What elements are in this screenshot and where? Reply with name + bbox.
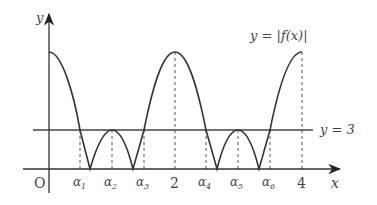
x-axis-label: x — [331, 175, 339, 191]
origin-label: O — [34, 175, 45, 191]
tick-alpha1: α1 — [73, 175, 86, 191]
line-label: y = 3 — [319, 122, 355, 137]
curve-label: y = |f(x)| — [249, 28, 308, 43]
tick-two: 2 — [170, 175, 179, 191]
tick-alpha4: α4 — [198, 175, 211, 191]
tick-alpha5: α5 — [230, 175, 243, 191]
tick-alpha6: α6 — [262, 175, 275, 191]
tick-alpha2: α2 — [104, 175, 117, 191]
y-axis-label: y — [35, 10, 44, 25]
tick-alpha3: α3 — [136, 175, 149, 191]
tick-four: 4 — [297, 175, 306, 191]
dashed-guides — [80, 52, 302, 169]
graph-of-abs-f: y x O y = |f(x)| y = 3 α1 α2 α3 2 α4 α5 … — [0, 0, 377, 205]
curve-abs-f — [49, 52, 302, 169]
tick-labels: α1 α2 α3 2 α4 α5 α6 4 — [73, 175, 306, 191]
